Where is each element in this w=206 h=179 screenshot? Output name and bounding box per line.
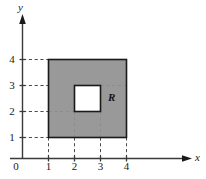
y-tick-label-2: 2 (5, 106, 19, 117)
x-tick-label-1: 1 (42, 161, 56, 172)
x-tick-label-2: 2 (68, 161, 82, 172)
origin-label: 0 (9, 161, 23, 172)
x-tick-label-3: 3 (94, 161, 108, 172)
x-axis-label: x (195, 152, 200, 163)
y-axis-label: y (18, 2, 23, 13)
region-label-r: R (108, 92, 115, 103)
region-r-diagram (0, 0, 206, 179)
y-tick-label-1: 1 (5, 132, 19, 143)
inner-square-hole (75, 86, 101, 112)
y-tick-label-4: 4 (5, 54, 19, 65)
y-tick-label-3: 3 (5, 80, 19, 91)
x-tick-label-4: 4 (120, 161, 134, 172)
